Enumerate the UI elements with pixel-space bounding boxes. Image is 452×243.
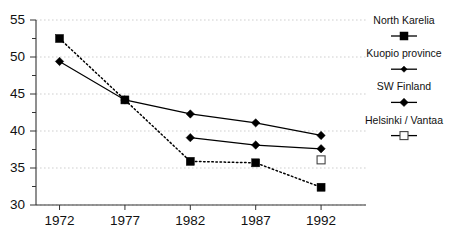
legend-marker-2 (400, 98, 408, 106)
series-sw-finland (186, 133, 325, 153)
series-line (60, 61, 322, 135)
data-point (55, 57, 63, 65)
x-tick-label-1992: 1992 (306, 213, 336, 228)
y-tick-label-50: 50 (10, 49, 25, 64)
gridlines (36, 20, 366, 205)
data-point (252, 159, 260, 167)
x-tick-label-1982: 1982 (175, 213, 205, 228)
legend-marker-0 (400, 32, 408, 40)
y-tick-label-55: 55 (10, 12, 25, 27)
data-point (186, 133, 194, 141)
data-point (186, 157, 194, 165)
data-point (186, 110, 194, 118)
series-kuopio-province (55, 57, 325, 139)
data-point (317, 131, 325, 139)
x-tick-label-1972: 1972 (45, 213, 75, 228)
y-tick-label-30: 30 (10, 197, 25, 212)
legend-label-2: SW Finland (377, 80, 431, 92)
legend-marker-1 (401, 66, 407, 72)
data-point (251, 119, 259, 127)
chart-container: 555045403530 19721977198219871992 North … (0, 0, 452, 243)
data-point (317, 183, 325, 191)
line-chart: 555045403530 19721977198219871992 North … (0, 0, 452, 243)
y-tick-label-35: 35 (10, 160, 25, 175)
x-tick-label-1987: 1987 (241, 213, 271, 228)
legend-label-1: Kuopio province (366, 47, 441, 59)
data-point (317, 145, 325, 153)
x-axis-tick-labels: 19721977198219871992 (45, 213, 337, 228)
x-tick-label-1977: 1977 (110, 213, 140, 228)
legend-marker-3 (400, 132, 408, 140)
data-point (251, 141, 259, 149)
legend-label-3: Helsinki / Vantaa (365, 114, 443, 126)
data-point (317, 156, 325, 164)
series-helsinki-vantaa (317, 156, 325, 164)
y-axis-tick-labels: 555045403530 (10, 12, 25, 212)
data-point (56, 35, 64, 43)
legend-label-0: North Karelia (373, 14, 434, 26)
legend: North KareliaKuopio provinceSW FinlandHe… (365, 14, 443, 140)
y-tick-label-45: 45 (10, 86, 25, 101)
y-tick-label-40: 40 (10, 123, 25, 138)
